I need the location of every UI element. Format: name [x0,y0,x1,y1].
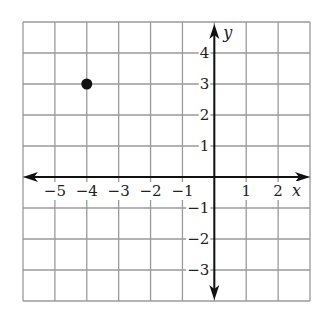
y-tick-label: −2 [187,230,209,248]
x-tick-label: −3 [108,182,130,200]
y-tick-label: 3 [200,75,210,93]
axes [23,24,310,300]
y-tick-label: −1 [187,199,209,217]
x-axis-label: x [292,181,301,200]
x-tick-label: 2 [273,182,283,200]
x-tick-label: −4 [76,182,98,200]
y-tick-label: 2 [200,106,210,124]
grid-lines [23,22,310,301]
x-tick-label: −5 [44,182,66,200]
y-tick-label: −3 [187,261,209,279]
plotted-point [81,79,92,90]
y-tick-label: 1 [200,137,210,155]
y-tick-label: 4 [200,44,210,62]
y-axis-label: y [222,23,233,42]
x-tick-label: −1 [171,182,193,200]
x-tick-label: 1 [241,182,251,200]
coordinate-plane: −5−4−3−2−1124321−1−2−3 x y [0,0,326,310]
tick-labels: −5−4−3−2−1124321−1−2−3 [43,44,284,279]
x-tick-label: −2 [139,182,161,200]
data-points [81,79,92,90]
